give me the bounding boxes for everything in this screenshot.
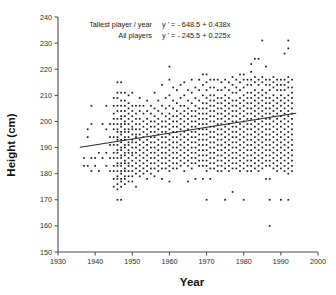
data-point xyxy=(239,170,241,172)
data-point xyxy=(265,160,267,162)
data-point xyxy=(146,134,148,136)
data-point xyxy=(243,131,245,133)
data-point xyxy=(124,170,126,172)
data-point xyxy=(224,121,226,123)
data-point xyxy=(172,147,174,149)
data-point xyxy=(258,58,260,60)
data-point xyxy=(269,79,271,81)
data-point xyxy=(206,81,208,83)
data-point xyxy=(139,118,141,120)
data-point xyxy=(124,152,126,154)
data-point xyxy=(254,157,256,159)
data-point xyxy=(117,139,119,141)
data-point xyxy=(209,157,211,159)
data-point xyxy=(269,113,271,115)
data-point xyxy=(198,134,200,136)
annotation-equation: y ' = - 245.5 + 0.225x xyxy=(162,31,231,40)
data-point xyxy=(165,131,167,133)
data-point xyxy=(232,136,234,138)
data-point xyxy=(213,162,215,164)
data-point xyxy=(94,157,96,159)
data-point xyxy=(128,108,130,110)
data-point xyxy=(117,144,119,146)
data-point xyxy=(254,121,256,123)
data-point xyxy=(157,155,159,157)
data-point xyxy=(269,89,271,91)
data-point xyxy=(206,118,208,120)
data-point xyxy=(213,147,215,149)
data-point xyxy=(146,110,148,112)
data-point xyxy=(146,170,148,172)
data-point xyxy=(206,74,208,76)
annotation-label: All players xyxy=(118,31,152,40)
data-point xyxy=(131,155,133,157)
data-point xyxy=(165,97,167,99)
data-point xyxy=(224,199,226,201)
data-point xyxy=(202,155,204,157)
data-point xyxy=(239,165,241,167)
data-point xyxy=(284,165,286,167)
data-point xyxy=(157,165,159,167)
data-point xyxy=(161,126,163,128)
data-point xyxy=(117,149,119,151)
data-point xyxy=(280,100,282,102)
data-point xyxy=(172,115,174,117)
data-point xyxy=(139,165,141,167)
data-point xyxy=(239,102,241,104)
data-point xyxy=(239,113,241,115)
data-point xyxy=(273,162,275,164)
data-point xyxy=(258,108,260,110)
data-point xyxy=(169,94,171,96)
data-point xyxy=(128,118,130,120)
data-point xyxy=(280,141,282,143)
data-point xyxy=(150,157,152,159)
data-point xyxy=(250,97,252,99)
y-axis-ticks: 150160170180190200210220230240 xyxy=(40,13,58,257)
data-point xyxy=(198,79,200,81)
data-point xyxy=(131,121,133,123)
data-point xyxy=(172,162,174,164)
data-point xyxy=(261,110,263,112)
data-point xyxy=(284,53,286,55)
data-point xyxy=(124,178,126,180)
data-point xyxy=(247,84,249,86)
data-point xyxy=(224,162,226,164)
data-point xyxy=(146,118,148,120)
data-point xyxy=(120,115,122,117)
data-point xyxy=(195,131,197,133)
data-point xyxy=(120,165,122,167)
data-point xyxy=(150,152,152,154)
data-point xyxy=(235,157,237,159)
data-point xyxy=(113,157,115,159)
data-point xyxy=(157,100,159,102)
data-point xyxy=(117,110,119,112)
data-point xyxy=(254,81,256,83)
data-point xyxy=(198,160,200,162)
data-point xyxy=(269,102,271,104)
data-point xyxy=(128,123,130,125)
data-point xyxy=(165,162,167,164)
data-point xyxy=(91,157,93,159)
data-point xyxy=(287,131,289,133)
y-axis-title: Height (cm) xyxy=(5,113,17,176)
data-point xyxy=(124,92,126,94)
data-point xyxy=(276,79,278,81)
data-point xyxy=(117,170,119,172)
data-point xyxy=(120,100,122,102)
data-point xyxy=(195,178,197,180)
data-point xyxy=(128,149,130,151)
data-point xyxy=(169,123,171,125)
data-point xyxy=(120,131,122,133)
data-points-layer xyxy=(83,40,293,227)
data-point xyxy=(154,147,156,149)
data-point xyxy=(291,149,293,151)
data-point xyxy=(269,149,271,151)
data-point xyxy=(157,149,159,151)
data-point xyxy=(120,110,122,112)
data-point xyxy=(228,113,230,115)
data-point xyxy=(165,126,167,128)
data-point xyxy=(276,118,278,120)
data-point xyxy=(120,162,122,164)
data-point xyxy=(287,157,289,159)
data-point xyxy=(113,165,115,167)
